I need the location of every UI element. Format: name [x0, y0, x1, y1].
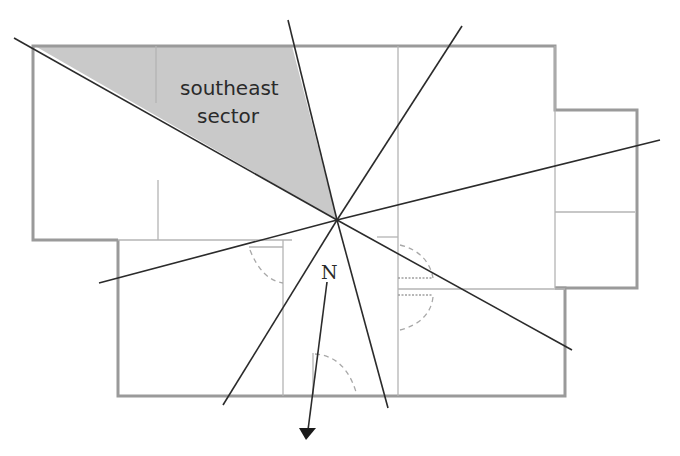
door-swings	[250, 245, 433, 392]
north-arrow: N	[299, 261, 338, 440]
floor-plan-sector-diagram: southeast sector N	[0, 0, 680, 456]
sector-label-line1: southeast	[180, 76, 279, 100]
north-label: N	[321, 261, 338, 283]
north-arrow-head-icon	[299, 428, 316, 440]
sector-label-line2: sector	[197, 104, 260, 128]
